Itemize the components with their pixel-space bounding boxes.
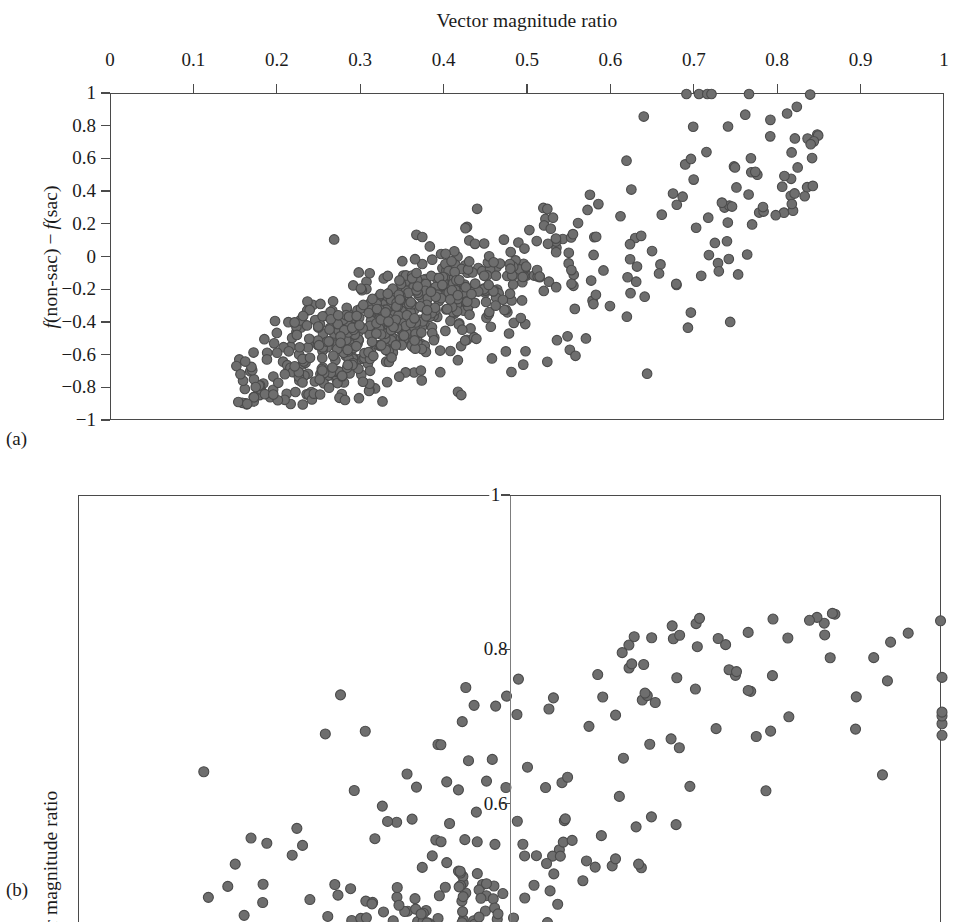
scatter-point xyxy=(627,185,637,195)
scatter-point xyxy=(804,615,814,625)
scatter-point xyxy=(383,289,393,299)
scatter-point xyxy=(260,334,270,344)
scatter-point xyxy=(280,369,290,379)
scatter-point xyxy=(675,630,685,640)
scatter-point xyxy=(360,726,370,736)
scatter-point xyxy=(461,223,471,233)
scatter-point xyxy=(583,205,593,215)
panel-a-x-tick: 0.3 xyxy=(348,49,372,71)
two-panel-scatter-figure: Vector magnitude ratio f(non-sac) − f(sa… xyxy=(0,0,975,922)
scatter-point xyxy=(622,312,632,322)
panel-a-x-tick-mark xyxy=(360,84,361,93)
scatter-point xyxy=(490,839,500,849)
scatter-point xyxy=(634,859,644,869)
scatter-point xyxy=(672,200,682,210)
scatter-point xyxy=(520,893,530,903)
scatter-point xyxy=(416,909,426,919)
scatter-point xyxy=(346,884,356,894)
scatter-point xyxy=(563,772,573,782)
panel-a-top-axis-title: Vector magnitude ratio xyxy=(437,10,618,32)
scatter-point xyxy=(564,248,574,258)
scatter-point xyxy=(686,154,696,164)
scatter-point xyxy=(611,710,621,720)
scatter-point xyxy=(442,858,452,868)
scatter-point xyxy=(262,838,272,848)
scatter-point xyxy=(457,717,467,727)
scatter-point xyxy=(688,122,698,132)
scatter-point xyxy=(507,367,517,377)
scatter-point xyxy=(666,734,676,744)
scatter-point xyxy=(642,369,652,379)
scatter-point xyxy=(354,268,364,278)
scatter-point xyxy=(315,375,325,385)
scatter-point xyxy=(365,268,375,278)
panel-b-zero-axis-line xyxy=(510,496,511,922)
scatter-point xyxy=(262,355,272,365)
scatter-point xyxy=(454,275,464,285)
scatter-point xyxy=(333,311,343,321)
scatter-point xyxy=(730,163,740,173)
scatter-point xyxy=(553,899,563,909)
panel-a-x-tick: 1 xyxy=(939,49,949,71)
scatter-point xyxy=(234,397,244,407)
scatter-point xyxy=(323,911,333,921)
scatter-point xyxy=(333,890,343,900)
scatter-point xyxy=(851,692,861,702)
scatter-point xyxy=(683,323,693,333)
panel-a-y-tick-mark xyxy=(101,125,110,126)
scatter-point xyxy=(594,199,604,209)
scatter-point xyxy=(435,367,445,377)
scatter-point xyxy=(777,182,787,192)
scatter-point xyxy=(284,346,294,356)
panel-a-y-tick-mark xyxy=(101,419,110,420)
scatter-point xyxy=(654,269,664,279)
panel-b-left-axis-title: Vector magnitude ratio xyxy=(40,791,62,922)
scatter-point xyxy=(240,357,250,367)
scatter-point xyxy=(784,712,794,722)
scatter-point xyxy=(454,882,464,892)
panel-a-y-tick-mark xyxy=(101,92,110,93)
scatter-point xyxy=(686,308,696,318)
scatter-point xyxy=(692,642,702,652)
scatter-point xyxy=(807,153,817,163)
scatter-point xyxy=(251,382,261,392)
scatter-point xyxy=(378,397,388,407)
scatter-point xyxy=(324,383,334,393)
scatter-point xyxy=(269,390,279,400)
scatter-point xyxy=(639,112,649,122)
scatter-point xyxy=(354,393,364,403)
panel-a-y-tick-mark xyxy=(101,223,110,224)
scatter-point xyxy=(518,360,528,370)
scatter-point xyxy=(394,900,404,910)
panel-a-x-tick-mark xyxy=(193,84,194,93)
scatter-point xyxy=(481,297,491,307)
scatter-point xyxy=(399,331,409,341)
scatter-point xyxy=(703,213,713,223)
scatter-point xyxy=(722,236,732,246)
scatter-point xyxy=(481,879,491,889)
scatter-point xyxy=(324,337,334,347)
panel-a-y-tick: 0 xyxy=(87,246,97,268)
scatter-point xyxy=(702,147,712,157)
panel-a-x-tick: 0.7 xyxy=(682,49,706,71)
scatter-point xyxy=(787,199,797,209)
scatter-point xyxy=(539,286,549,296)
scatter-point xyxy=(740,110,750,120)
scatter-point xyxy=(472,334,482,344)
panel-b: Vector magnitude ratio −1−0.8−0.6−0.4−0.… xyxy=(0,462,975,922)
scatter-point xyxy=(629,632,639,642)
panel-b-letter: (b) xyxy=(6,879,28,901)
scatter-point xyxy=(336,690,346,700)
panel-a-x-tick-mark xyxy=(693,84,694,93)
scatter-point xyxy=(563,332,573,342)
scatter-point xyxy=(733,270,743,280)
scatter-point xyxy=(535,272,545,282)
scatter-point xyxy=(787,148,797,158)
scatter-point xyxy=(304,334,314,344)
scatter-point xyxy=(417,376,427,386)
scatter-point xyxy=(723,122,733,132)
scatter-point xyxy=(474,912,484,922)
scatter-point xyxy=(484,280,494,290)
scatter-point xyxy=(340,395,350,405)
scatter-point xyxy=(548,213,558,223)
